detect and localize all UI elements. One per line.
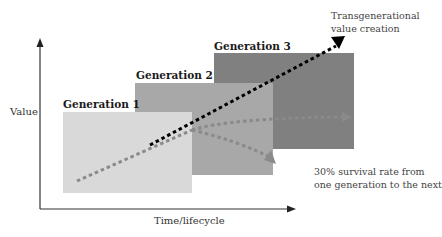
- generation-1-block: [63, 112, 192, 193]
- survival-note-line-1: 30% survival rate from: [314, 165, 442, 178]
- y-axis-arrow-icon: [37, 38, 44, 47]
- survival-rate-annotation: 30% survival rate from one generation to…: [314, 165, 442, 191]
- annotation-line-1: Transgenerational: [331, 9, 420, 22]
- trend-arrow-icon: [331, 36, 345, 49]
- transgenerational-annotation: Transgenerational value creation: [331, 9, 420, 35]
- y-axis-label: Value: [10, 106, 38, 117]
- generation-1-label: Generation 1: [63, 98, 140, 110]
- generation-2-label: Generation 2: [136, 69, 213, 81]
- survival-note-line-2: one generation to the next: [314, 178, 442, 191]
- x-axis-arrow-icon: [287, 206, 296, 213]
- annotation-line-2: value creation: [331, 22, 420, 35]
- generation-3-label: Generation 3: [214, 40, 291, 52]
- x-axis-label: Time/lifecycle: [154, 215, 225, 226]
